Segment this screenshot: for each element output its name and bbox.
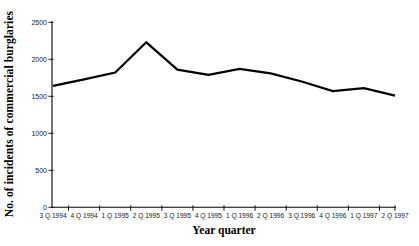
x-tick-label: 4 Q 1994 <box>71 212 98 220</box>
y-tick-label: 1000 <box>31 130 47 137</box>
y-tick-label: 2500 <box>31 19 47 26</box>
x-tick-label: 4 Q 1996 <box>319 212 346 220</box>
x-axis-title: Year quarter <box>192 224 255 236</box>
y-tick-label: 0 <box>43 204 47 211</box>
y-tick-label: 2000 <box>31 56 47 63</box>
x-tick-label: 3 Q 1994 <box>39 212 66 220</box>
data-line <box>53 42 395 95</box>
x-tick-label: 1 Q 1997 <box>350 212 377 220</box>
x-tick-label: 2 Q 1997 <box>381 212 408 220</box>
x-tick-label: 4 Q 1995 <box>195 212 222 220</box>
x-tick-label: 1 Q 1996 <box>226 212 253 220</box>
x-tick-label: 2 Q 1995 <box>133 212 160 220</box>
x-tick-label: 3 Q 1995 <box>164 212 191 220</box>
x-tick-label: 3 Q 1996 <box>288 212 315 220</box>
chart-figure: No. of incidents of commercial burglarie… <box>0 0 419 246</box>
y-tick-label: 500 <box>35 167 47 174</box>
x-tick-label: 1 Q 1995 <box>102 212 129 220</box>
x-tick-label: 2 Q 1996 <box>257 212 284 220</box>
burglaries-line-chart: 050010001500200025003 Q 19944 Q 19941 Q … <box>0 0 419 246</box>
y-tick-label: 1500 <box>31 93 47 100</box>
